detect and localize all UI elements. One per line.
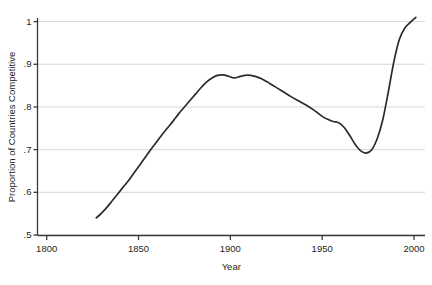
y-tick-label: .7: [24, 145, 32, 155]
y-tick-label: .8: [24, 102, 32, 112]
x-tick-label: 1950: [302, 244, 342, 254]
y-tick-label: .5: [24, 230, 32, 240]
x-tick-label: 1800: [27, 244, 67, 254]
x-axis-title: Year: [171, 262, 291, 272]
y-axis-title: Proportion of Countries Competitive: [7, 52, 17, 203]
data-line-series: [96, 17, 416, 218]
chart-figure: .5.6.7.8.91 18001850190019502000 Proport…: [0, 0, 432, 285]
x-tick-label: 1900: [210, 244, 250, 254]
x-tick-label: 2000: [394, 244, 432, 254]
gridlines-group: [38, 22, 426, 235]
line-chart-canvas: [0, 0, 432, 285]
y-tick-label: .6: [24, 187, 32, 197]
x-tick-marks: [47, 236, 414, 241]
x-tick-label: 1850: [119, 244, 159, 254]
y-tick-label: 1: [26, 17, 31, 27]
y-tick-label: .9: [24, 59, 32, 69]
axis-spines-group: [38, 18, 426, 236]
